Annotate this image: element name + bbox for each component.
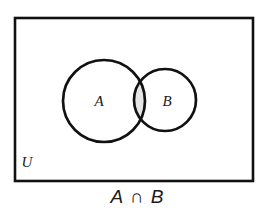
venn-diagram-canvas: A B U [0, 0, 275, 215]
universal-set-label: U [22, 154, 34, 170]
set-a-label: A [93, 93, 104, 109]
diagram-caption: A ∩ B [0, 186, 275, 208]
venn-diagram-figure: A B U A ∩ B [0, 0, 275, 215]
set-b-label: B [162, 93, 171, 109]
